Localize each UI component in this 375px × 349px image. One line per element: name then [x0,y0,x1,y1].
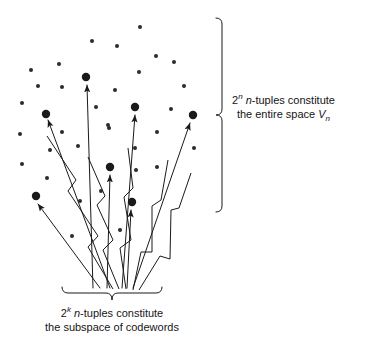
small-dot-group [18,25,196,238]
noise-dot [115,44,119,48]
noise-dot [57,62,61,66]
codeword-dot-group [32,73,197,206]
noise-dot [36,84,40,88]
codeword-dot [189,111,197,119]
zigzag-5 [139,173,191,290]
noise-dot [48,148,52,152]
noise-dot [182,84,186,88]
noise-dot [60,130,64,134]
arrow-to-dot-6 [133,123,190,288]
space-annotation-line1: 2n n-tuples constitute [232,90,335,107]
space-annotation-line2: the entire space Vn [232,107,335,126]
subspace-annotation-line1: 2k n-tuples constitute [12,303,212,320]
noise-dot [113,88,117,92]
noise-dot [137,70,141,74]
noise-dot [78,199,82,203]
codeword-dot [82,73,90,81]
zigzag-group [47,136,191,290]
noise-dot [172,60,176,64]
subspace-line1-rest: -tuples constitute [80,307,163,319]
codeword-dot [131,103,139,111]
figure-canvas: 2n n-tuples constitute the entire space … [0,0,375,349]
space-var-V: V [318,108,325,120]
noise-dot [155,130,159,134]
space-line2-prefix: the entire space [237,108,318,120]
noise-dot [106,123,110,127]
subspace-annotation: 2k n-tuples constitute the subspace of c… [12,303,212,334]
noise-dot [169,107,173,111]
noise-dot [20,162,24,166]
zigzag-1 [47,136,113,289]
noise-dot [138,25,142,29]
noise-dot [134,168,138,172]
noise-dot [99,189,103,193]
noise-dot [76,144,80,148]
noise-dot [45,176,49,180]
vertical-brace-space [216,18,222,212]
noise-dot [192,146,196,150]
space-exponent: n [238,92,242,101]
noise-dot [94,105,98,109]
space-annotation: 2n n-tuples constitute the entire space … [232,90,335,126]
coding-space-figure [0,0,375,349]
space-subscript-n: n [326,114,330,123]
noise-dot [70,234,74,238]
noise-dot [20,101,24,105]
codeword-dot [128,198,136,206]
noise-dot [133,146,137,150]
arrow-to-dot-2 [87,85,93,288]
noise-dot [18,132,22,136]
codeword-dot [106,163,114,171]
brace-group [62,18,222,300]
codeword-dot [42,110,50,118]
noise-dot [154,54,158,58]
subspace-annotation-line2: the subspace of codewords [12,320,212,334]
noise-dot [29,68,33,72]
horizontal-brace-subspace [62,287,162,300]
noise-dot [90,39,94,43]
noise-dot [60,85,64,89]
noise-dot [155,165,159,169]
codeword-dot [32,192,40,200]
noise-dot [118,228,122,232]
arrow-group [38,85,190,288]
space-line1-rest: -tuples constitute [252,94,335,106]
